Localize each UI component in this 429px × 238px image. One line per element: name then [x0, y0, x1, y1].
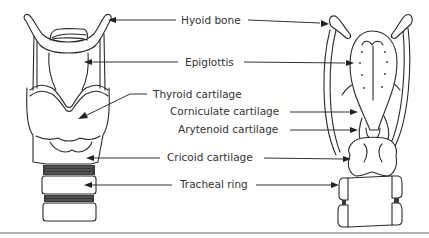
- label-thyroid-cartilage: Thyroid cartilage: [152, 88, 242, 100]
- label-epiglottis-text: Epiglottis: [185, 56, 234, 68]
- label-tracheal-ring: Tracheal ring: [179, 178, 248, 190]
- label-cricoid-cartilage: Cricoid cartilage: [167, 151, 253, 163]
- label-arytenoid-cartilage: Arytenoid cartilage: [178, 123, 278, 135]
- label-cricoid: Cricoid cartilage: [86, 151, 351, 163]
- label-epiglottis: Epiglottis: [84, 56, 354, 68]
- label-hyoid-bone: Hyoid bone: [181, 14, 241, 26]
- posterior-view: [324, 15, 412, 227]
- label-corniculate: Corniculate cartilage: [170, 105, 358, 117]
- label-corniculate-cartilage: Corniculate cartilage: [170, 105, 279, 117]
- label-arytenoid: Arytenoid cartilage: [178, 123, 358, 135]
- anterior-view: [24, 14, 111, 221]
- label-hyoid: Hyoid bone: [108, 14, 329, 27]
- larynx-diagram: Hyoid bone Epiglottis Thyroid cartilage …: [0, 0, 429, 238]
- label-tracheal: Tracheal ring: [84, 178, 339, 190]
